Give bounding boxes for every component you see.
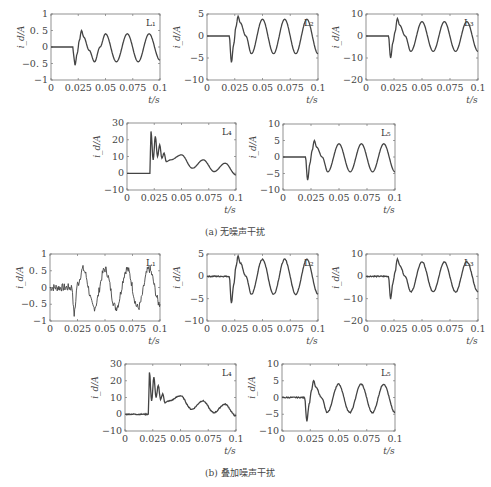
svg-text:0.025: 0.025 bbox=[141, 192, 168, 203]
svg-text:0.05: 0.05 bbox=[252, 82, 273, 93]
svg-text:−5: −5 bbox=[265, 408, 279, 419]
svg-text:0.075: 0.075 bbox=[277, 323, 304, 334]
svg-text:i_d/A: i_d/A bbox=[247, 376, 258, 399]
svg-text:−10: −10 bbox=[102, 425, 122, 436]
svg-text:0: 0 bbox=[204, 82, 210, 93]
svg-text:1: 1 bbox=[41, 248, 47, 259]
svg-text:i_d/A: i_d/A bbox=[16, 25, 27, 48]
svg-text:0.05: 0.05 bbox=[328, 192, 349, 203]
svg-text:t/s: t/s bbox=[224, 446, 236, 456]
svg-text:0: 0 bbox=[198, 30, 204, 41]
svg-text:0: 0 bbox=[124, 192, 130, 203]
svg-text:0: 0 bbox=[280, 192, 286, 203]
plot-a-l5: 00.0250.050.0750.11050−5−10t/si_d/AL₅ bbox=[283, 124, 395, 190]
svg-text:0.1: 0.1 bbox=[387, 433, 402, 444]
svg-text:0. 5: 0. 5 bbox=[29, 265, 47, 276]
svg-text:0.075: 0.075 bbox=[119, 323, 146, 334]
svg-text:0.1: 0.1 bbox=[310, 82, 325, 93]
svg-text:0.025: 0.025 bbox=[297, 433, 324, 444]
svg-text:0.05: 0.05 bbox=[170, 433, 191, 444]
svg-text:0: 0 bbox=[48, 82, 54, 93]
svg-text:0: 0 bbox=[279, 433, 285, 444]
svg-text:0.1: 0.1 bbox=[228, 192, 243, 203]
svg-text:0: 0 bbox=[363, 323, 369, 334]
svg-text:5: 5 bbox=[198, 8, 204, 19]
svg-text:t/s: t/s bbox=[224, 205, 236, 215]
svg-text:−10: −10 bbox=[184, 315, 204, 326]
svg-text:5: 5 bbox=[198, 248, 204, 259]
svg-text:0.1: 0.1 bbox=[152, 82, 167, 93]
svg-text:0.05: 0.05 bbox=[95, 82, 116, 93]
svg-text:30: 30 bbox=[112, 117, 124, 128]
svg-text:0.05: 0.05 bbox=[171, 192, 192, 203]
svg-text:0: 0 bbox=[47, 323, 53, 334]
svg-text:0.1: 0.1 bbox=[387, 192, 402, 203]
svg-text:t/s: t/s bbox=[148, 95, 160, 105]
svg-text:0.05: 0.05 bbox=[252, 323, 273, 334]
svg-text:0.025: 0.025 bbox=[297, 192, 324, 203]
svg-text:L₄: L₄ bbox=[222, 368, 232, 378]
svg-text:0: 0 bbox=[363, 82, 369, 93]
svg-text:0.025: 0.025 bbox=[139, 433, 166, 444]
svg-text:i_d/A: i_d/A bbox=[172, 25, 183, 48]
plot-b-l1: 00.0250.050.0750.110. 50−0. 5−1t/si_d/AL… bbox=[50, 254, 160, 321]
svg-text:0.025: 0.025 bbox=[221, 323, 248, 334]
svg-text:t/s: t/s bbox=[306, 95, 318, 105]
svg-text:0: 0 bbox=[357, 270, 363, 281]
svg-text:1: 1 bbox=[42, 8, 48, 19]
svg-text:5: 5 bbox=[274, 135, 280, 146]
svg-text:−1: −1 bbox=[34, 74, 48, 85]
svg-text:i_d/A: i_d/A bbox=[248, 135, 259, 158]
svg-text:L₅: L₅ bbox=[381, 368, 391, 378]
svg-text:t/s: t/s bbox=[148, 336, 160, 346]
svg-text:0.075: 0.075 bbox=[353, 433, 380, 444]
svg-text:0.025: 0.025 bbox=[221, 82, 248, 93]
svg-text:t/s: t/s bbox=[466, 336, 478, 346]
svg-text:0.025: 0.025 bbox=[380, 323, 407, 334]
plot-b-l2: 00.0250.050.0750.150−5−10t/si_d/AL₂ bbox=[207, 254, 318, 321]
svg-text:−20: −20 bbox=[343, 74, 363, 85]
svg-text:0.1: 0.1 bbox=[310, 323, 325, 334]
svg-text:L₁: L₁ bbox=[146, 258, 156, 268]
svg-text:−0. 5: −0. 5 bbox=[21, 298, 47, 309]
svg-text:L₅: L₅ bbox=[381, 128, 391, 138]
svg-text:0: 0 bbox=[357, 30, 363, 41]
svg-text:0.075: 0.075 bbox=[353, 192, 380, 203]
svg-text:10: 10 bbox=[110, 392, 122, 403]
svg-text:0.1: 0.1 bbox=[470, 323, 485, 334]
svg-text:0.05: 0.05 bbox=[94, 323, 115, 334]
svg-text:−0. 5: −0. 5 bbox=[22, 58, 48, 69]
svg-text:10: 10 bbox=[351, 8, 363, 19]
svg-text:L₁: L₁ bbox=[146, 18, 156, 28]
svg-text:i_d/A: i_d/A bbox=[331, 266, 342, 289]
svg-text:0.075: 0.075 bbox=[436, 82, 463, 93]
svg-text:0: 0 bbox=[273, 392, 279, 403]
svg-text:0: 0 bbox=[204, 323, 210, 334]
svg-text:0.025: 0.025 bbox=[64, 323, 91, 334]
svg-text:−5: −5 bbox=[190, 52, 204, 63]
svg-text:0.1: 0.1 bbox=[152, 323, 167, 334]
svg-text:0.075: 0.075 bbox=[195, 433, 222, 444]
svg-text:10: 10 bbox=[112, 151, 124, 162]
svg-text:0: 0 bbox=[42, 41, 48, 52]
svg-text:i_d/A: i_d/A bbox=[15, 266, 26, 289]
svg-text:−10: −10 bbox=[184, 74, 204, 85]
svg-text:i_d/A: i_d/A bbox=[172, 266, 183, 289]
svg-text:−10: −10 bbox=[260, 184, 280, 195]
svg-text:0.025: 0.025 bbox=[380, 82, 407, 93]
svg-text:10: 10 bbox=[268, 118, 280, 129]
svg-text:t/s: t/s bbox=[306, 336, 318, 346]
plot-a-l3: 00.0250.050.0750.1100−10−20t/si_d/AL₃ bbox=[366, 14, 478, 80]
svg-text:20: 20 bbox=[110, 375, 122, 386]
svg-text:0.1: 0.1 bbox=[470, 82, 485, 93]
plot-a-l1: 00.0250.050.0750.110. 50−0. 5−1t/si_d/AL… bbox=[51, 14, 160, 80]
svg-text:−5: −5 bbox=[190, 293, 204, 304]
svg-text:30: 30 bbox=[110, 358, 122, 369]
plot-a-l4: 00.0250.050.0750.13020100−10t/si_d/AL₄ bbox=[127, 123, 236, 190]
svg-text:0: 0 bbox=[41, 282, 47, 293]
svg-text:t/s: t/s bbox=[383, 205, 395, 215]
svg-text:10: 10 bbox=[351, 248, 363, 259]
svg-text:0. 5: 0. 5 bbox=[30, 25, 48, 36]
svg-text:−20: −20 bbox=[343, 315, 363, 326]
plot-a-l2: 00.0250.050.0750.150−5−10t/si_d/AL₂ bbox=[207, 14, 318, 80]
